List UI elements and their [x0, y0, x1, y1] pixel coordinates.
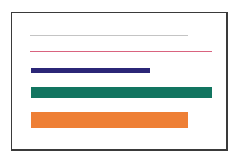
orange-bar: [31, 112, 188, 128]
thin-gray-line: [30, 35, 188, 36]
thin-pink-line: [30, 51, 212, 52]
navy-bar: [31, 68, 150, 73]
green-bar: [31, 87, 212, 98]
figure-frame: [11, 12, 228, 151]
